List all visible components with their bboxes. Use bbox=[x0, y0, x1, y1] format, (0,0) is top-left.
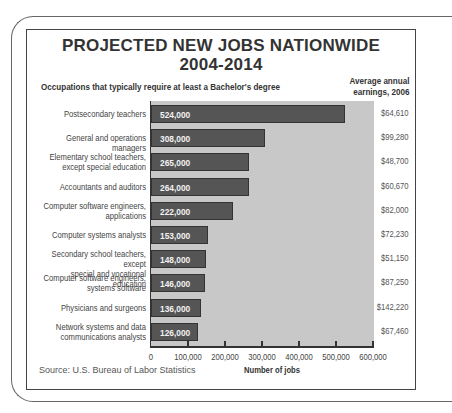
bar-value-label: 264,000 bbox=[160, 182, 190, 193]
x-tick-label: 100,000 bbox=[174, 352, 202, 362]
earnings-header: Average annual earnings, 2006 bbox=[349, 75, 409, 97]
category-label-line: Computer software engineers, bbox=[36, 273, 147, 283]
category-label-line: General and operations managers bbox=[36, 133, 147, 153]
bar-value-label: 265,000 bbox=[160, 157, 190, 168]
earnings-value: $99,280 bbox=[381, 132, 409, 142]
earnings-value: $87,250 bbox=[381, 277, 409, 287]
bar-value-label: 136,000 bbox=[160, 303, 190, 314]
earnings-header-line-2: earnings, 2006 bbox=[349, 86, 409, 97]
category-label-line: Computer software engineers, bbox=[36, 201, 147, 211]
x-tick bbox=[224, 341, 226, 347]
x-tick bbox=[187, 341, 189, 347]
category-header: Occupations that typically require at le… bbox=[41, 81, 280, 92]
bar: 126,000 bbox=[151, 323, 198, 341]
category-label: Computer software engineers,systems soft… bbox=[36, 273, 147, 293]
chart-panel: PROJECTED NEW JOBS NATIONWIDE 2004-2014 … bbox=[26, 29, 416, 390]
bar-value-label: 222,000 bbox=[160, 206, 190, 217]
category-label-line: Physicians and surgeons bbox=[36, 303, 147, 313]
x-tick bbox=[261, 341, 263, 347]
bar: 264,000 bbox=[151, 178, 249, 196]
bar-value-label: 126,000 bbox=[160, 327, 190, 338]
earnings-value: $72,230 bbox=[381, 229, 409, 239]
bar: 308,000 bbox=[151, 129, 265, 147]
bar-value-label: 524,000 bbox=[160, 109, 190, 120]
x-tick-label: 300,000 bbox=[248, 352, 276, 362]
category-label: Computer software engineers,applications bbox=[36, 201, 147, 221]
earnings-value: $60,670 bbox=[381, 181, 409, 191]
category-label-line: Postsecondary teachers bbox=[36, 109, 147, 119]
bar: 524,000 bbox=[151, 105, 345, 123]
earnings-value: $82,000 bbox=[381, 205, 409, 215]
category-label: Accountants and auditors bbox=[36, 182, 147, 192]
category-label-line: applications bbox=[36, 211, 147, 221]
chart-title: PROJECTED NEW JOBS NATIONWIDE 2004-2014 bbox=[27, 36, 415, 74]
title-line-1: PROJECTED NEW JOBS NATIONWIDE bbox=[27, 36, 415, 55]
category-label-line: except special education bbox=[36, 162, 147, 172]
bar-value-label: 308,000 bbox=[160, 133, 190, 144]
bar-value-label: 153,000 bbox=[160, 230, 190, 241]
category-label-line: systems software bbox=[36, 283, 147, 293]
category-label: Network systems and datacommunications a… bbox=[36, 322, 147, 342]
earnings-value: $64,610 bbox=[381, 108, 409, 118]
bar-value-label: 148,000 bbox=[160, 254, 190, 265]
category-label-line: Secondary school teachers, except bbox=[36, 249, 147, 269]
title-line-2: 2004-2014 bbox=[27, 55, 415, 74]
x-tick bbox=[298, 341, 300, 347]
bar-value-label: 146,000 bbox=[160, 278, 190, 289]
category-label-line: Network systems and data bbox=[36, 322, 147, 332]
earnings-value: $51,150 bbox=[381, 253, 409, 263]
x-axis-label: Number of jobs bbox=[244, 365, 300, 375]
category-label: Postsecondary teachers bbox=[36, 109, 147, 119]
x-tick-label: 200,000 bbox=[211, 352, 239, 362]
bar: 265,000 bbox=[151, 153, 249, 171]
bar: 148,000 bbox=[151, 250, 206, 268]
bar: 136,000 bbox=[151, 299, 201, 317]
category-label: Computer systems analysts bbox=[36, 230, 147, 240]
category-label-line: Accountants and auditors bbox=[36, 182, 147, 192]
category-label-line: Elementary school teachers, bbox=[36, 152, 147, 162]
earnings-header-line-1: Average annual bbox=[349, 75, 409, 86]
category-label: General and operations managers bbox=[36, 133, 147, 153]
x-tick bbox=[335, 341, 337, 347]
x-tick-label: 400,000 bbox=[285, 352, 313, 362]
earnings-value: $67,460 bbox=[381, 326, 409, 336]
x-tick-label: 500,000 bbox=[322, 352, 350, 362]
source-note: Source: U.S. Bureau of Labor Statistics bbox=[39, 365, 196, 375]
bar: 146,000 bbox=[151, 274, 205, 292]
bar: 222,000 bbox=[151, 202, 233, 220]
category-label-line: Computer systems analysts bbox=[36, 230, 147, 240]
earnings-value: $48,700 bbox=[381, 156, 409, 166]
category-label: Physicians and surgeons bbox=[36, 303, 147, 313]
x-tick-label: 600,000 bbox=[359, 352, 387, 362]
category-label: Elementary school teachers,except specia… bbox=[36, 152, 147, 172]
x-tick-label: 0 bbox=[149, 352, 153, 362]
category-label-line: communications analysts bbox=[36, 332, 147, 342]
x-tick bbox=[372, 341, 374, 347]
earnings-value: $142,220 bbox=[377, 302, 409, 312]
bar: 153,000 bbox=[151, 226, 208, 244]
